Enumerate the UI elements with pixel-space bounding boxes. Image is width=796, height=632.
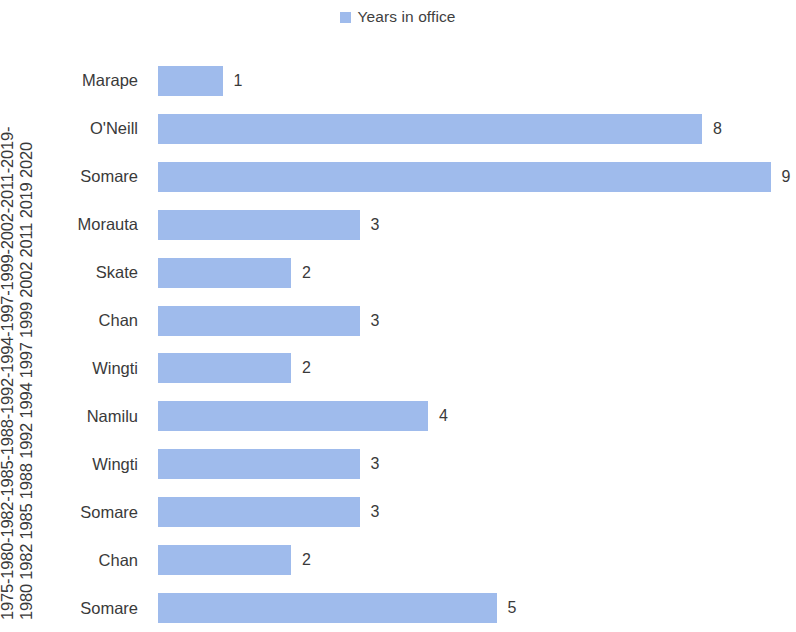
bar-9[interactable] <box>158 497 360 527</box>
bar-6[interactable] <box>158 353 291 383</box>
bar-row: 2 <box>158 536 796 584</box>
bar-row: 3 <box>158 440 796 488</box>
bar-row: 4 <box>158 392 796 440</box>
category-label-11: Somare <box>80 599 148 618</box>
bar-value-10: 2 <box>302 551 311 569</box>
category-label-6: Wingti <box>92 359 148 378</box>
category-tick: Wingti <box>42 440 148 488</box>
category-tick: Skate <box>42 249 148 297</box>
legend-color-swatch <box>340 12 351 23</box>
bar-value-7: 4 <box>439 407 448 425</box>
bar-row: 2 <box>158 345 796 393</box>
category-tick: O'Neill <box>42 105 148 153</box>
category-tick: Somare <box>42 584 148 632</box>
bar-8[interactable] <box>158 449 360 479</box>
bar-10[interactable] <box>158 545 291 575</box>
bar-11[interactable] <box>158 593 497 623</box>
bar-0[interactable] <box>158 66 223 96</box>
category-tick: Chan <box>42 297 148 345</box>
legend-label-years-in-office: Years in office <box>357 8 455 26</box>
category-label-0: Marape <box>82 71 148 90</box>
category-axis-labels: Marape O'Neill Somare Morauta Skate Chan… <box>42 57 148 632</box>
category-tick: Chan <box>42 536 148 584</box>
category-tick: Somare <box>42 153 148 201</box>
category-label-5: Chan <box>99 311 148 330</box>
bar-5[interactable] <box>158 306 360 336</box>
bar-row: 2 <box>158 249 796 297</box>
bar-value-1: 8 <box>713 120 722 138</box>
category-label-3: Morauta <box>77 215 148 234</box>
bar-7[interactable] <box>158 401 428 431</box>
category-tick: Somare <box>42 488 148 536</box>
category-tick: Namilu <box>42 392 148 440</box>
category-label-10: Chan <box>99 551 148 570</box>
bar-row: 3 <box>158 488 796 536</box>
category-axis-title-line-2: 1980 1982 1985 1988 1992 1994 1997 1999 … <box>17 142 36 620</box>
bar-value-11: 5 <box>508 599 517 617</box>
bar-1[interactable] <box>158 114 702 144</box>
bar-chart: Years in office 1975-1980-1982-1985-1988… <box>0 0 796 632</box>
category-tick: Marape <box>42 57 148 105</box>
bar-row: 8 <box>158 105 796 153</box>
bar-value-4: 2 <box>302 264 311 282</box>
plot-area: 1 8 9 3 2 3 2 4 3 3 2 5 <box>158 57 796 632</box>
category-label-4: Skate <box>96 263 148 282</box>
bar-4[interactable] <box>158 258 291 288</box>
chart-legend: Years in office <box>0 8 796 26</box>
bar-value-5: 3 <box>371 312 380 330</box>
category-axis-title-line-1: 1975-1980-1982-1985-1988-1992-1994-1997-… <box>0 127 17 620</box>
bar-value-2: 9 <box>782 168 791 186</box>
bar-value-3: 3 <box>371 216 380 234</box>
bar-value-8: 3 <box>371 455 380 473</box>
bar-rows: 1 8 9 3 2 3 2 4 3 3 2 5 <box>158 57 796 632</box>
bar-value-9: 3 <box>371 503 380 521</box>
category-label-7: Namilu <box>87 407 148 426</box>
bar-value-6: 2 <box>302 359 311 377</box>
bar-value-0: 1 <box>234 72 243 90</box>
bar-row: 5 <box>158 584 796 632</box>
category-tick: Morauta <box>42 201 148 249</box>
category-axis-title: 1975-1980-1982-1985-1988-1992-1994-1997-… <box>0 60 40 620</box>
bar-2[interactable] <box>158 162 771 192</box>
category-label-2: Somare <box>80 167 148 186</box>
bar-row: 1 <box>158 57 796 105</box>
bar-3[interactable] <box>158 210 360 240</box>
bar-row: 3 <box>158 297 796 345</box>
category-label-1: O'Neill <box>90 119 148 138</box>
category-label-9: Somare <box>80 503 148 522</box>
bar-row: 3 <box>158 201 796 249</box>
category-tick: Wingti <box>42 345 148 393</box>
bar-row: 9 <box>158 153 796 201</box>
category-label-8: Wingti <box>92 455 148 474</box>
